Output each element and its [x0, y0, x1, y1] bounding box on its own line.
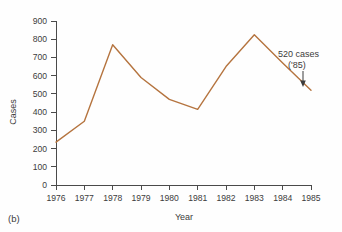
annotation-line-1: 520 cases	[278, 49, 320, 59]
annotation-line-2: ('85)	[288, 60, 306, 70]
y-tick-label: 100	[33, 162, 48, 172]
x-tick-label: 1978	[103, 193, 122, 203]
figure-panel: 0 100 200 300 400 500 600 700 800 900	[0, 0, 342, 232]
y-tick-label: 400	[33, 107, 48, 117]
x-tick-label: 1977	[75, 193, 94, 203]
x-tick-label: 1983	[245, 193, 264, 203]
panel-label: (b)	[8, 213, 20, 224]
y-tick-label: 200	[33, 144, 48, 154]
x-tick-label: 1984	[273, 193, 292, 203]
y-tick-labels: 0 100 200 300 400 500 600 700 800 900	[33, 16, 48, 190]
y-tick-label: 900	[33, 16, 48, 26]
y-tick-label: 500	[33, 89, 48, 99]
line-chart: 0 100 200 300 400 500 600 700 800 900	[0, 0, 342, 232]
y-tick-label: 700	[33, 52, 48, 62]
y-tick-label: 0	[42, 180, 47, 190]
y-tick-label: 300	[33, 125, 48, 135]
x-axis-title: Year	[175, 212, 193, 222]
y-tick-label: 800	[33, 34, 48, 44]
x-tick-label: 1976	[46, 193, 65, 203]
x-tick-labels: 1976 1977 1978 1979 1980 1981 1982 1983 …	[46, 193, 320, 203]
x-tick-label: 1982	[216, 193, 235, 203]
x-tick-label: 1981	[188, 193, 207, 203]
x-tick-label: 1979	[131, 193, 150, 203]
data-series-line	[56, 35, 311, 143]
y-tick-label: 600	[33, 71, 48, 81]
x-tick-marks	[56, 185, 311, 190]
y-axis-title: Cases	[8, 99, 18, 125]
x-tick-label: 1980	[160, 193, 179, 203]
y-tick-marks	[51, 21, 56, 185]
x-tick-label: 1985	[301, 193, 320, 203]
